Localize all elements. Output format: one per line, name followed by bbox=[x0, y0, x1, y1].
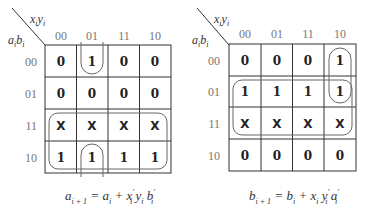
equation-b-next: bi + 1 = bi + xi y′i a′i bbox=[249, 188, 337, 206]
cell: X bbox=[303, 117, 313, 131]
col-header: 10 bbox=[149, 29, 161, 43]
cell: 0 bbox=[336, 149, 344, 163]
col-var-label: xiyi bbox=[29, 12, 45, 28]
row-var-label: aibi bbox=[192, 33, 208, 49]
row-var-label: aibi bbox=[8, 33, 24, 49]
cell: 0 bbox=[120, 55, 128, 69]
col-header: 00 bbox=[55, 29, 67, 43]
equation-a-next: ai + 1 = ai + x′i yi b′i bbox=[65, 188, 153, 206]
col-header: 11 bbox=[118, 29, 130, 43]
cell: 0 bbox=[57, 87, 65, 101]
cell: X bbox=[240, 117, 250, 131]
row-header: 11 bbox=[25, 119, 37, 133]
cell: 0 bbox=[241, 54, 249, 68]
cell: 0 bbox=[120, 87, 128, 101]
cell: 0 bbox=[88, 87, 96, 101]
cell: 0 bbox=[57, 55, 65, 69]
col-header: 00 bbox=[239, 27, 251, 41]
cell: 1 bbox=[57, 151, 65, 165]
cell: 1 bbox=[88, 151, 96, 165]
cell: X bbox=[56, 119, 66, 133]
row-header: 01 bbox=[208, 85, 220, 99]
col-header: 10 bbox=[334, 27, 346, 41]
col-header: 01 bbox=[86, 29, 98, 43]
col-var-label: xiyi bbox=[213, 12, 229, 28]
cell: 0 bbox=[304, 149, 312, 163]
cell: 0 bbox=[273, 149, 281, 163]
cell: 1 bbox=[304, 85, 312, 99]
cell: 1 bbox=[151, 151, 159, 165]
cell: 0 bbox=[151, 55, 159, 69]
cell: 1 bbox=[273, 85, 281, 99]
row-header: 10 bbox=[208, 149, 220, 163]
row-header: 10 bbox=[25, 151, 37, 165]
row-header: 11 bbox=[208, 117, 220, 131]
row-header: 01 bbox=[25, 87, 37, 101]
cell: 1 bbox=[120, 151, 128, 165]
cell: X bbox=[272, 117, 282, 131]
cell: X bbox=[119, 119, 129, 133]
cell: 1 bbox=[336, 85, 344, 99]
col-header: 01 bbox=[271, 27, 283, 41]
cell: 1 bbox=[88, 55, 96, 69]
cell: 1 bbox=[336, 54, 344, 68]
cell: 0 bbox=[273, 54, 281, 68]
kmap-a-next: xiyi aibi 00 01 11 10 00 01 11 10 0 1 0 … bbox=[0, 0, 185, 223]
cell: X bbox=[150, 119, 160, 133]
cell: 1 bbox=[241, 85, 249, 99]
row-header: 00 bbox=[25, 55, 37, 69]
cell: X bbox=[87, 119, 97, 133]
row-header: 00 bbox=[208, 54, 220, 68]
cell: 0 bbox=[151, 87, 159, 101]
kmap-b-next: xiyi aibi 00 01 11 10 00 01 11 10 0 0 0 … bbox=[185, 0, 370, 223]
cell: 0 bbox=[241, 149, 249, 163]
cell: X bbox=[335, 117, 345, 131]
col-header: 11 bbox=[302, 27, 314, 41]
cell: 0 bbox=[304, 54, 312, 68]
